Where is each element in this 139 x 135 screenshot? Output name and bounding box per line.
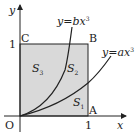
curve-a-label: y=ax3 xyxy=(101,46,134,59)
x-tick-one: 1 xyxy=(85,119,92,132)
point-a-label: A xyxy=(88,104,98,117)
curve-b-label: y=bx3 xyxy=(56,15,90,28)
diagram: y x O 1 1 A B C y=bx3 y=ax3 S3 S2 S1 xyxy=(0,0,139,135)
diagram-svg: y x O 1 1 A B C y=bx3 y=ax3 S3 S2 S1 xyxy=(0,0,139,135)
point-b-label: B xyxy=(89,32,97,45)
y-tick-one: 1 xyxy=(9,38,16,51)
origin-label: O xyxy=(5,119,14,132)
x-axis-label: x xyxy=(117,119,124,132)
y-axis-label: y xyxy=(8,4,16,17)
point-c-label: C xyxy=(21,32,29,45)
